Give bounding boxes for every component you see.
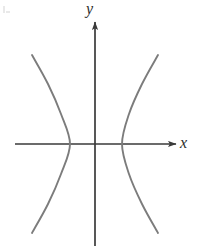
- graph-canvas: [0, 0, 210, 250]
- scan-artifact-speck: [6, 11, 10, 13]
- x-axis-label: x: [180, 135, 187, 151]
- scan-artifact-speck: [3, 6, 5, 13]
- y-axis-label: y: [86, 1, 93, 17]
- hyperbola-figure: y x: [0, 0, 210, 250]
